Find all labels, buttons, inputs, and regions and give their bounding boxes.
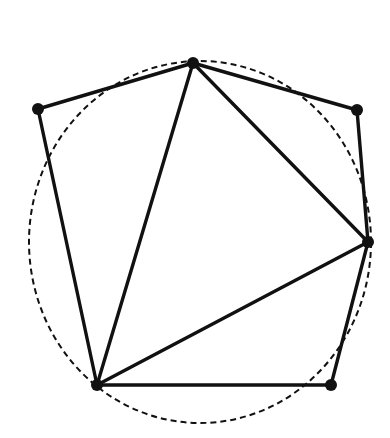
inner-triangle-edges — [97, 63, 368, 385]
polygon-edge-AB — [38, 63, 193, 109]
vertex-point-A — [32, 103, 44, 115]
polygon-edge-FA — [38, 109, 97, 385]
vertex-points — [32, 57, 374, 391]
geometry-figure — [0, 0, 390, 438]
diagram-canvas — [0, 0, 390, 438]
vertex-point-E — [325, 379, 337, 391]
vertex-point-C — [351, 104, 363, 116]
polygon-edge-DE — [331, 242, 368, 385]
triangle-edge-FB — [97, 63, 193, 385]
triangle-edge-BD — [193, 63, 368, 242]
dashed-circumcircle — [29, 61, 371, 423]
vertex-point-B — [187, 57, 199, 69]
polygon-edge-CD — [357, 110, 368, 242]
vertex-point-F — [91, 379, 103, 391]
vertex-point-D — [362, 236, 374, 248]
